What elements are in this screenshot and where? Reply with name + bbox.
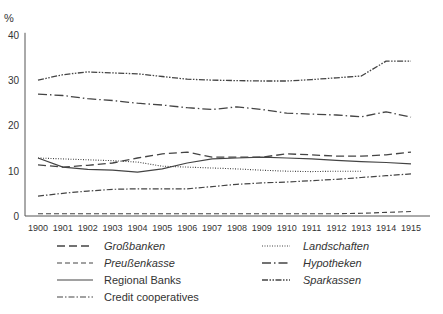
legend-label: Regional Banks <box>104 273 181 287</box>
legend-item: Credit cooperatives <box>57 290 257 304</box>
legend-label: Hypotheken <box>303 256 362 270</box>
legend-line-sample-icon <box>57 242 93 250</box>
legend-label: Preußenkasse <box>104 256 175 270</box>
legend-line-sample-icon <box>262 242 290 250</box>
legend-line-sample-icon <box>57 293 93 301</box>
legend-line-sample-icon <box>57 259 93 267</box>
legend-item: Preußenkasse <box>57 256 257 270</box>
legend-line-sample-icon <box>262 259 290 267</box>
legend-item: Regional Banks <box>57 273 257 287</box>
legend-label: Credit cooperatives <box>104 290 199 304</box>
legend-item: Sparkassen <box>262 273 443 287</box>
legend-line-sample-icon <box>262 276 290 284</box>
legend-label: Landschaften <box>303 239 369 253</box>
legend-label: Sparkassen <box>303 273 361 287</box>
legend-item: Landschaften <box>262 239 443 253</box>
legend-label: Großbanken <box>104 239 165 253</box>
legend-item: Großbanken <box>57 239 257 253</box>
legend-line-sample-icon <box>57 276 93 284</box>
chart-legend: GroßbankenPreußenkasseRegional BanksCred… <box>0 0 443 314</box>
legend-item: Hypotheken <box>262 256 443 270</box>
